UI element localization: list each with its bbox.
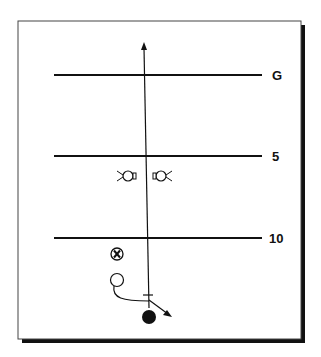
yard-label-5: 5 bbox=[272, 149, 279, 164]
yard-label-goal: G bbox=[272, 68, 282, 83]
circled-x-icon bbox=[111, 248, 123, 260]
quarterback-icon bbox=[142, 310, 156, 324]
play-diagram: G 5 10 bbox=[0, 0, 321, 357]
running-back-icon bbox=[111, 274, 124, 287]
yard-label-10: 10 bbox=[269, 231, 283, 246]
